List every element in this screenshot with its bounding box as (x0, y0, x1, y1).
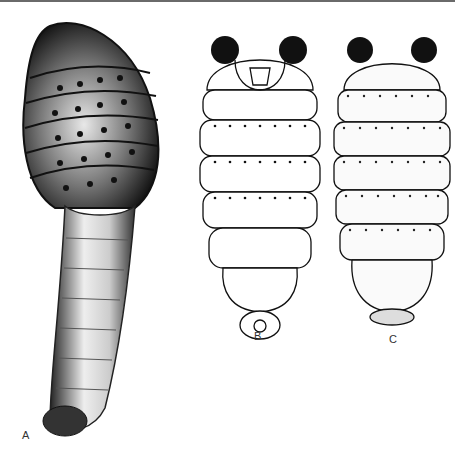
panel-c-label: C (389, 333, 397, 345)
panel-b-illustration (195, 30, 325, 340)
top-rule (0, 0, 455, 2)
panel-a-label: A (22, 429, 29, 441)
panel-b-label: B (254, 330, 261, 342)
larva-dorsal-icon (330, 30, 455, 330)
panel-c-illustration (330, 30, 455, 330)
larva-lateral-icon (20, 18, 170, 438)
panel-a-illustration (20, 18, 170, 438)
larva-ventral-icon (195, 30, 325, 340)
